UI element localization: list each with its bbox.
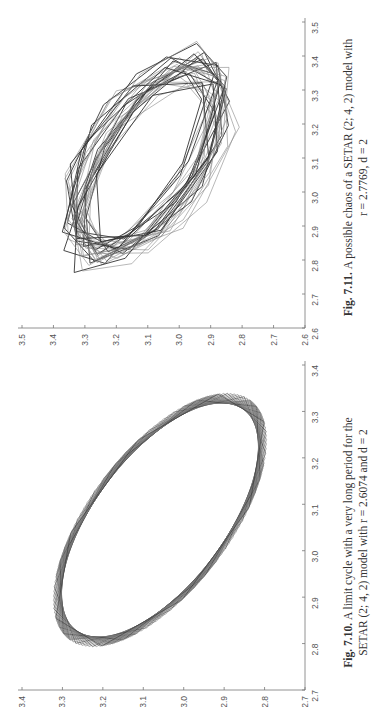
tick-label: 2.9 xyxy=(310,597,320,609)
tick-label: 2.6 xyxy=(300,334,310,346)
tick-label: 3.0 xyxy=(310,550,320,562)
tick-label: 3.3 xyxy=(310,90,320,102)
tick-label: 3.4 xyxy=(310,56,320,68)
tick-label: 2.7 xyxy=(310,690,320,702)
tick-label: 2.6 xyxy=(310,328,320,340)
tick-label: 3.5 xyxy=(17,334,27,346)
tick-label: 2.7 xyxy=(310,294,320,306)
caption-text: SETAR (2; 4, 2) model with r = 2.6074 an… xyxy=(356,385,371,700)
tick-label: 3.3 xyxy=(80,334,90,346)
tick-label: 3.2 xyxy=(111,334,121,346)
tick-label: 3.1 xyxy=(310,158,320,170)
figure-7-11-plot: 2.62.72.82.93.03.13.23.33.43.52.62.72.82… xyxy=(0,0,330,350)
caption-text: A possible chaos of a SETAR (2; 4, 2) mo… xyxy=(342,39,354,270)
figure-number: Fig. 7.10. xyxy=(342,623,354,668)
tick-label: 3.3 xyxy=(310,411,320,423)
tick-label: 3.2 xyxy=(310,458,320,470)
tick-label: 3.3 xyxy=(57,696,67,707)
figure-number: Fig. 7.11. xyxy=(342,272,354,316)
tick-label: 3.0 xyxy=(174,334,184,346)
tick-label: 2.8 xyxy=(310,260,320,272)
tick-label: 2.8 xyxy=(310,643,320,655)
caption-text: A limit cycle with a very long period fo… xyxy=(342,417,354,620)
tick-label: 3.4 xyxy=(48,334,58,346)
limit-cycle-phase-plot: 2.72.82.93.03.13.23.33.42.72.82.93.03.13… xyxy=(0,350,330,707)
figure-7-10-plot: 2.72.82.93.03.13.23.33.42.72.82.93.03.13… xyxy=(0,350,330,707)
tick-label: 3.0 xyxy=(179,696,189,707)
tick-label: 2.9 xyxy=(219,696,229,707)
tick-label: 3.2 xyxy=(98,696,108,707)
tick-label: 2.7 xyxy=(269,334,279,346)
tick-label: 3.0 xyxy=(310,192,320,204)
tick-label: 3.1 xyxy=(310,504,320,516)
chaos-phase-plot: 2.62.72.82.93.03.13.23.33.43.52.62.72.82… xyxy=(0,0,330,350)
tick-label: 2.8 xyxy=(260,696,270,707)
tick-label: 2.8 xyxy=(237,334,247,346)
tick-label: 3.1 xyxy=(143,334,153,346)
tick-label: 3.2 xyxy=(310,124,320,136)
tick-label: 2.7 xyxy=(300,696,310,707)
tick-label: 3.5 xyxy=(310,22,320,34)
figure-7-11-caption: Fig. 7.11. A possible chaos of a SETAR (… xyxy=(341,20,371,335)
tick-label: 2.9 xyxy=(206,334,216,346)
tick-label: 3.1 xyxy=(138,696,148,707)
tick-label: 2.9 xyxy=(310,226,320,238)
caption-text: r = 2.7769, d = 2 xyxy=(356,20,371,335)
tick-label: 3.4 xyxy=(17,696,27,707)
figure-7-10-caption: Fig. 7.10. A limit cycle with a very lon… xyxy=(341,385,371,700)
tick-label: 3.4 xyxy=(310,365,320,377)
